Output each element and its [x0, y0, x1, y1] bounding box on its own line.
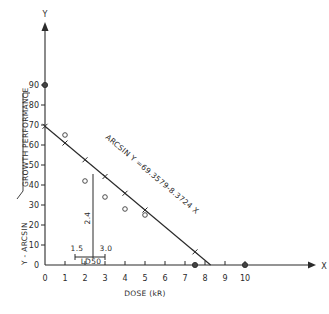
y-axis-label-sqrt-term: GROWTH PERFORMANCE: [21, 88, 30, 187]
data-point-open-circle-icon: [123, 207, 128, 212]
y-tick-label: 10: [29, 241, 39, 250]
x-ticks: 012345678910: [42, 261, 250, 283]
y-ticks: 0102030405060708090: [29, 81, 45, 270]
ld50-annotation: 2.4 1.5 3.0 LD50: [71, 174, 113, 266]
ci-upper-label: 3.0: [100, 244, 113, 253]
x-tick-label: 3: [102, 274, 107, 283]
data-point-open-circle-icon: [143, 213, 148, 218]
y-tick-label: 40: [29, 181, 39, 190]
x-axis-label: DOSE (kR): [124, 289, 166, 298]
data-point-open-circle-icon: [192, 262, 197, 267]
chart-container: X Y 012345678910 0102030405060708090 DOS…: [0, 0, 329, 314]
y-tick-label: 20: [29, 221, 39, 230]
y-tick-label: 70: [29, 121, 39, 130]
ld50-label: LD50: [81, 257, 102, 266]
ci-lower-label: 1.5: [71, 244, 84, 253]
data-point-open-circle-icon: [63, 133, 68, 138]
y-tick-label: 60: [29, 141, 39, 150]
x-axis-name: X: [321, 262, 327, 271]
x-tick-label: 8: [202, 274, 207, 283]
x-axis-arrow-icon: [308, 262, 316, 269]
x-tick-label: 0: [42, 274, 47, 283]
ld50-value: 2.4: [83, 212, 92, 225]
x-tick-label: 6: [162, 274, 167, 283]
data-point-open-circle-icon: [83, 179, 88, 184]
y-tick-label: 80: [29, 101, 39, 110]
y-axis-label-prefix: Y - ARCSIN: [20, 222, 29, 266]
x-tick-label: 9: [222, 274, 227, 283]
y-axis-arrow-icon: [42, 22, 49, 31]
regression-equation: ARCSIN Y =69.3579-8.3724 X: [104, 133, 201, 216]
x-tick-label: 10: [240, 274, 250, 283]
regression-line: [43, 124, 211, 265]
y-tick-label: 50: [29, 161, 39, 170]
x-tick-label: 4: [122, 274, 127, 283]
data-points: [42, 82, 247, 267]
x-tick-label: 7: [182, 274, 187, 283]
x-tick-label: 2: [82, 274, 87, 283]
data-point-open-circle-icon: [103, 195, 108, 200]
data-point-open-circle-icon: [42, 82, 47, 87]
x-tick-label: 5: [142, 274, 147, 283]
y-tick-label: 0: [34, 261, 39, 270]
y-axis-label: Y - ARCSIN GROWTH PERFORMANCE: [17, 88, 30, 266]
data-point-open-circle-icon: [242, 262, 247, 267]
y-axis-name: Y: [42, 10, 48, 19]
y-tick-label: 90: [29, 81, 39, 90]
x-tick-label: 1: [62, 274, 67, 283]
y-tick-label: 30: [29, 201, 39, 210]
ld50-regression-chart: X Y 012345678910 0102030405060708090 DOS…: [0, 0, 329, 314]
